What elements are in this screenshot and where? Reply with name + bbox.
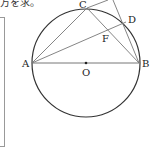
- label-c: C: [79, 0, 87, 10]
- label-f: F: [102, 33, 109, 44]
- segment-c-ext: [87, 0, 108, 8]
- label-d: D: [128, 14, 136, 25]
- label-o: O: [82, 67, 90, 78]
- center-point: [85, 62, 88, 65]
- label-a: A: [21, 58, 30, 69]
- segment-b-ext: [113, 0, 139, 63]
- label-b: B: [142, 58, 149, 69]
- geometry-figure: A B C D F O: [0, 0, 153, 152]
- segment-ad: [32, 22, 126, 63]
